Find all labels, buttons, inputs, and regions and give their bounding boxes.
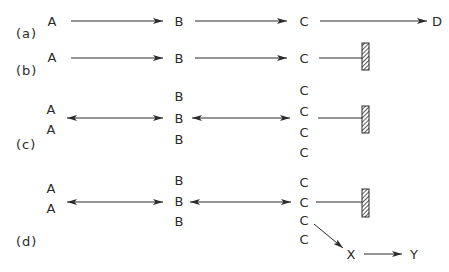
- node-d: D: [432, 15, 442, 28]
- node-c: C: [299, 146, 308, 159]
- node-b: B: [175, 215, 184, 228]
- node-a: A: [48, 51, 57, 64]
- node-a: A: [48, 15, 57, 28]
- panel-label-c: (c): [16, 138, 36, 151]
- node-c: C: [299, 105, 308, 118]
- barrier-icon: [362, 189, 369, 217]
- diagram-canvas: [0, 0, 449, 272]
- node-a: A: [47, 123, 56, 136]
- node-c: C: [299, 176, 308, 189]
- panel-d-arrows: [67, 189, 402, 254]
- node-c: C: [299, 233, 308, 246]
- node-a: A: [47, 202, 56, 215]
- node-c: C: [299, 126, 308, 139]
- node-c: C: [299, 196, 308, 209]
- barrier-icon: [362, 106, 369, 133]
- panel-b-arrows: [71, 43, 369, 70]
- node-c: C: [299, 84, 308, 97]
- node-b: B: [175, 15, 184, 28]
- node-b: B: [175, 195, 184, 208]
- arrow-c-to-x: [314, 224, 343, 248]
- node-b: B: [175, 174, 184, 187]
- node-a: A: [47, 103, 56, 116]
- barrier-icon: [362, 43, 369, 70]
- panel-c-arrows: [67, 106, 369, 133]
- node-b: B: [175, 112, 184, 125]
- node-b: B: [175, 133, 184, 146]
- node-c: C: [299, 52, 308, 65]
- node-c: C: [299, 15, 308, 28]
- node-b: B: [175, 90, 184, 103]
- node-y: Y: [410, 248, 418, 261]
- panel-label-d: (d): [16, 235, 37, 248]
- panel-label-a: (a): [16, 27, 37, 40]
- panel-label-b: (b): [16, 64, 37, 77]
- node-c: C: [299, 214, 308, 227]
- node-x: X: [347, 248, 356, 261]
- node-a: A: [47, 182, 56, 195]
- node-b: B: [175, 52, 184, 65]
